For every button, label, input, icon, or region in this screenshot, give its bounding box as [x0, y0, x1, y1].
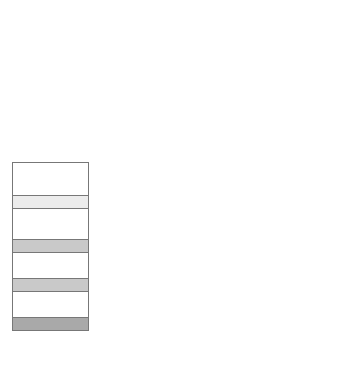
discourse-box: [12, 252, 89, 279]
discourse-label: [12, 278, 89, 292]
problem-label: [12, 317, 89, 331]
actors-label: [12, 239, 89, 253]
remedy-box: [12, 162, 89, 196]
problem-box: [12, 291, 89, 318]
actors-box: [12, 208, 89, 240]
remedy-label: [12, 195, 89, 209]
